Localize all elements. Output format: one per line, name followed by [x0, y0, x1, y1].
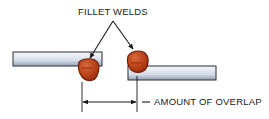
- weld-bead-right: [127, 51, 148, 73]
- diagram-canvas: FILLET WELDS AMOUNT OF OVERLAP: [0, 0, 269, 119]
- weld-bead-left-shape: [78, 59, 99, 81]
- weld-bead-right-shape: [127, 51, 148, 73]
- fillet-weld-diagram: FILLET WELDS AMOUNT OF OVERLAP: [0, 0, 269, 119]
- dimension-extension-lines: [82, 76, 137, 112]
- leader-line-right: [113, 21, 133, 49]
- amount-of-overlap-label: AMOUNT OF OVERLAP: [154, 96, 262, 107]
- fillet-welds-label: FILLET WELDS: [78, 6, 148, 17]
- weld-bead-left: [78, 59, 99, 81]
